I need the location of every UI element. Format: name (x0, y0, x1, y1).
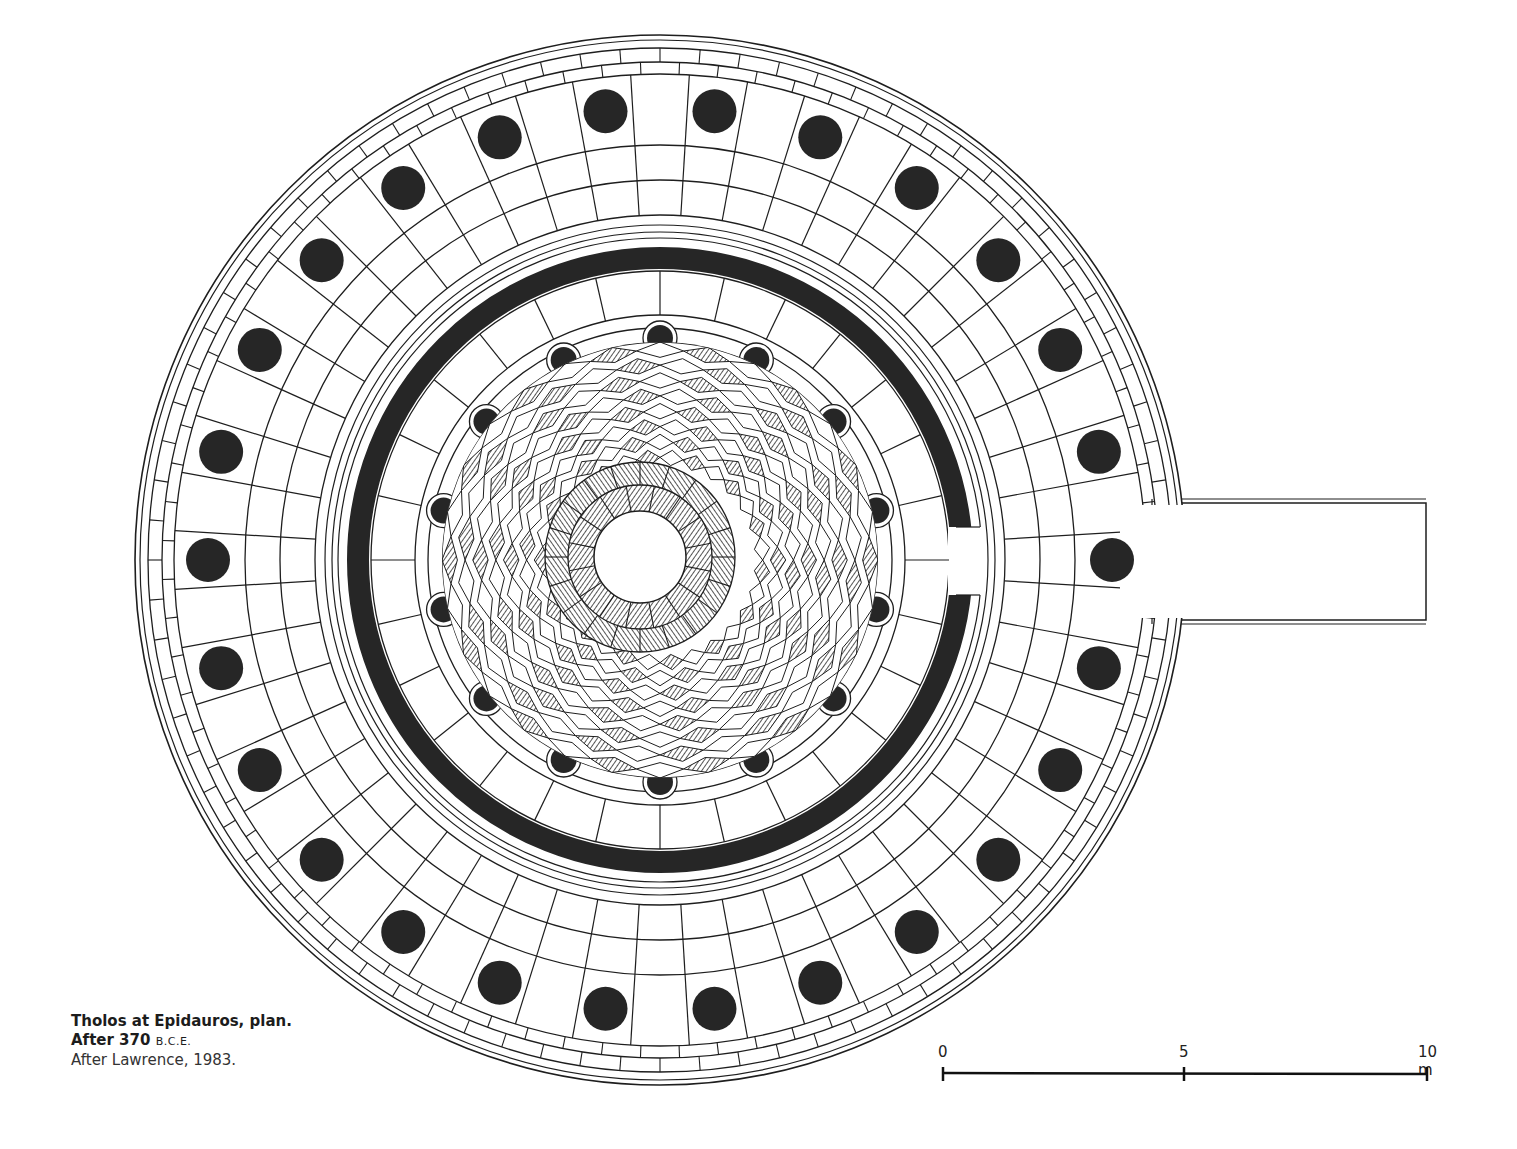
caption-date-year: After 370 (71, 1031, 150, 1049)
tholos-plan-drawing (0, 0, 1517, 1149)
scale-bar: 0 5 10 m (930, 1043, 1450, 1083)
scale-bar-line (930, 1043, 1450, 1083)
figure-caption: Tholos at Epidauros, plan. After 370 B.C… (71, 1012, 292, 1070)
plan-geometry (135, 35, 1426, 1085)
caption-source: After Lawrence, 1983. (71, 1051, 292, 1070)
caption-title: Tholos at Epidauros, plan. (71, 1012, 292, 1031)
caption-date: After 370 B.C.E. (71, 1031, 292, 1051)
caption-date-era: B.C.E. (156, 1035, 192, 1048)
